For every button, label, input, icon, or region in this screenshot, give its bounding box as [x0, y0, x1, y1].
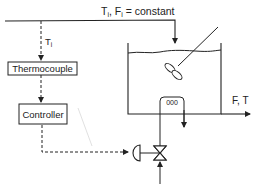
coil-symbol: 000 [166, 99, 178, 106]
controller-output-signal [42, 125, 128, 152]
valve-actuator [133, 145, 140, 161]
process-diagram: Ti, Fi = constant Ti Thermocouple Contro… [0, 0, 257, 186]
inlet-label: Ti, Fi = constant [101, 5, 175, 18]
liquid-level [128, 50, 221, 53]
controller-block: Controller [19, 104, 67, 124]
scan-artifact [78, 108, 92, 146]
measurement-label: Ti [45, 36, 52, 48]
agitator [163, 27, 218, 81]
heating-coil: 000 [160, 97, 184, 146]
thermocouple-label: Thermocouple [12, 63, 73, 74]
thermocouple-block: Thermocouple [8, 62, 77, 75]
outlet-label: F, T [232, 95, 248, 106]
inlet-feed-line [5, 20, 175, 43]
control-valve [133, 145, 166, 161]
controller-label: Controller [22, 109, 63, 120]
